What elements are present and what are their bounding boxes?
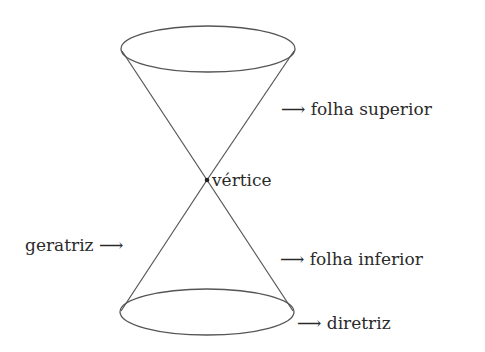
upper-left-generatrix — [122, 51, 207, 180]
label-geratriz: geratriz ⟶ — [25, 237, 123, 254]
label-folha-superior: ⟶ folha superior — [281, 101, 432, 118]
top-base-ellipse — [121, 26, 295, 72]
double-cone-diagram: ⟶ folha superior vértice geratriz ⟶ ⟶ fo… — [0, 0, 485, 352]
vertex-point — [205, 178, 210, 183]
label-vertice: vértice — [212, 172, 272, 189]
label-diretriz: ⟶ diretriz — [297, 315, 391, 332]
bottom-base-ellipse — [120, 289, 294, 335]
label-folha-inferior: ⟶ folha inferior — [280, 251, 423, 268]
